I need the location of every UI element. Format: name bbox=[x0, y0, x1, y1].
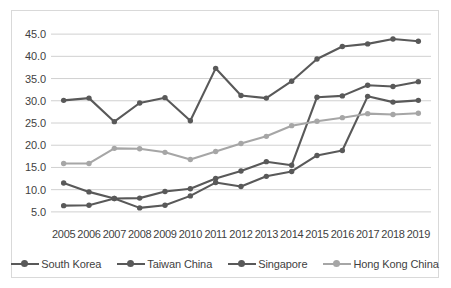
data-point bbox=[289, 79, 294, 84]
data-point bbox=[137, 195, 142, 200]
legend-dot bbox=[127, 260, 134, 267]
legend-marker-icon bbox=[323, 259, 351, 269]
legend-item-label: Taiwan China bbox=[147, 258, 212, 270]
legend-dot bbox=[333, 260, 340, 267]
data-point bbox=[162, 150, 167, 155]
data-point bbox=[112, 146, 117, 151]
data-point bbox=[314, 56, 319, 61]
data-point bbox=[365, 111, 370, 116]
data-point bbox=[112, 196, 117, 201]
data-point bbox=[416, 79, 421, 84]
series-line bbox=[64, 82, 419, 199]
data-point bbox=[390, 36, 395, 41]
chart-container: 5.010.015.020.025.030.035.040.045.0 2005… bbox=[11, 10, 439, 278]
data-point bbox=[264, 95, 269, 100]
data-point bbox=[314, 119, 319, 124]
data-point bbox=[289, 163, 294, 168]
data-point bbox=[188, 118, 193, 123]
data-point bbox=[213, 180, 218, 185]
data-point bbox=[314, 153, 319, 158]
legend-marker-icon bbox=[228, 259, 256, 269]
data-point bbox=[137, 146, 142, 151]
data-point bbox=[416, 111, 421, 116]
data-point bbox=[365, 41, 370, 46]
data-point bbox=[289, 123, 294, 128]
x-axis-tick-label: 2019 bbox=[401, 228, 435, 240]
data-point bbox=[340, 44, 345, 49]
data-point bbox=[213, 149, 218, 154]
data-point bbox=[340, 115, 345, 120]
y-axis-tick-label: 30.0 bbox=[12, 95, 46, 107]
legend-item-south-korea[interactable]: South Korea bbox=[11, 258, 101, 270]
y-axis-tick-label: 40.0 bbox=[12, 50, 46, 62]
data-point bbox=[390, 112, 395, 117]
y-axis-tick-label: 35.0 bbox=[12, 73, 46, 85]
data-point bbox=[61, 180, 66, 185]
data-point bbox=[390, 84, 395, 89]
data-point bbox=[289, 169, 294, 174]
data-point bbox=[86, 95, 91, 100]
data-point bbox=[61, 161, 66, 166]
data-point bbox=[264, 134, 269, 139]
data-point bbox=[61, 98, 66, 103]
data-point bbox=[264, 174, 269, 179]
data-point bbox=[238, 93, 243, 98]
legend-dot bbox=[21, 260, 28, 267]
legend-item-singapore[interactable]: Singapore bbox=[228, 258, 307, 270]
data-point bbox=[264, 159, 269, 164]
data-point bbox=[188, 186, 193, 191]
data-point bbox=[416, 39, 421, 44]
data-point bbox=[188, 157, 193, 162]
y-axis-tick-label: 45.0 bbox=[12, 28, 46, 40]
legend-dot bbox=[238, 260, 245, 267]
legend-item-label: Singapore bbox=[258, 258, 307, 270]
y-axis-tick-label: 15.0 bbox=[12, 161, 46, 173]
legend-item-hong-kong-china[interactable]: Hong Kong China bbox=[323, 258, 438, 270]
data-point bbox=[112, 119, 117, 124]
data-point bbox=[61, 203, 66, 208]
data-point bbox=[162, 203, 167, 208]
legend-marker-icon bbox=[11, 259, 39, 269]
data-point bbox=[238, 184, 243, 189]
plot-area: 5.010.015.020.025.030.035.040.045.0 2005… bbox=[12, 11, 438, 277]
data-point bbox=[137, 100, 142, 105]
series-line bbox=[64, 39, 419, 122]
y-axis-tick-label: 20.0 bbox=[12, 139, 46, 151]
series-hong-kong-china bbox=[61, 111, 421, 167]
chart-legend: South KoreaTaiwan ChinaSingaporeHong Kon… bbox=[12, 258, 438, 270]
data-point bbox=[137, 205, 142, 210]
data-point bbox=[188, 193, 193, 198]
data-point bbox=[86, 161, 91, 166]
data-point bbox=[340, 93, 345, 98]
data-point bbox=[86, 189, 91, 194]
data-point bbox=[86, 203, 91, 208]
data-point bbox=[238, 141, 243, 146]
data-point bbox=[416, 98, 421, 103]
data-point bbox=[213, 66, 218, 71]
data-point bbox=[390, 99, 395, 104]
data-point bbox=[365, 94, 370, 99]
data-point bbox=[162, 95, 167, 100]
data-point bbox=[365, 83, 370, 88]
data-point bbox=[314, 95, 319, 100]
y-axis-tick-label: 5.0 bbox=[12, 206, 46, 218]
legend-marker-icon bbox=[117, 259, 145, 269]
legend-item-label: South Korea bbox=[41, 258, 101, 270]
data-point bbox=[162, 189, 167, 194]
y-axis-tick-label: 10.0 bbox=[12, 184, 46, 196]
data-point bbox=[238, 168, 243, 173]
legend-item-label: Hong Kong China bbox=[353, 258, 438, 270]
legend-item-taiwan-china[interactable]: Taiwan China bbox=[117, 258, 212, 270]
data-point bbox=[340, 148, 345, 153]
y-axis-tick-label: 25.0 bbox=[12, 117, 46, 129]
